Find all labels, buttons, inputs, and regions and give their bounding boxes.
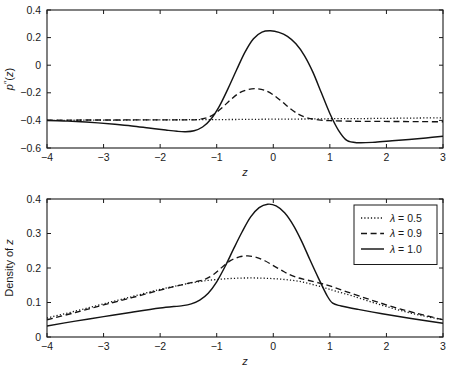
y-tick-label: 0.2	[26, 31, 41, 43]
y-tick-label: 0	[35, 331, 41, 343]
x-tick-label: 2	[384, 151, 390, 163]
x-tick-label: 0	[270, 151, 276, 163]
y-tick-label: −0.6	[20, 142, 41, 154]
y-axis-title: p′′(z)	[2, 68, 15, 91]
x-axis-title: z	[241, 355, 248, 367]
y-tick-label: −0.4	[20, 114, 41, 126]
x-tick-label: 0	[270, 340, 276, 352]
plot-frame	[47, 10, 443, 148]
x-tick-label: 1	[327, 340, 333, 352]
x-tick-label: −1	[211, 340, 223, 352]
y-axis-title: Density of z	[3, 239, 15, 297]
y-tick-label: 0.2	[26, 262, 41, 274]
figure-container: −4−3−2−10123−0.6−0.4−0.200.20.4zp′′(z) −…	[0, 0, 457, 377]
y-tick-label: 0.3	[26, 227, 41, 239]
series-line-dashed	[47, 256, 443, 320]
x-axis-title: z	[241, 166, 248, 178]
x-tick-label: −4	[41, 151, 53, 163]
x-tick-label: 3	[440, 151, 446, 163]
x-tick-label: −2	[154, 151, 166, 163]
chart-svg-top: −4−3−2−10123−0.6−0.4−0.200.20.4zp′′(z)	[0, 0, 457, 188]
y-tick-label: 0.4	[26, 4, 41, 16]
y-tick-label: 0.1	[26, 296, 41, 308]
legend-label: λ = 0.9	[389, 227, 422, 239]
x-tick-label: −2	[154, 340, 166, 352]
x-tick-label: −3	[98, 340, 110, 352]
x-tick-label: −4	[41, 340, 53, 352]
x-tick-label: −3	[98, 151, 110, 163]
y-tick-label: 0.4	[26, 193, 41, 205]
chart-panel-bottom: −4−3−2−1012300.10.20.30.4zDensity of zλ …	[0, 186, 457, 377]
x-tick-label: −1	[211, 151, 223, 163]
legend-label: λ = 0.5	[389, 212, 422, 224]
x-tick-label: 2	[384, 340, 390, 352]
curves-group	[47, 31, 443, 143]
series-line-dashed	[47, 89, 443, 122]
y-tick-label: 0	[35, 59, 41, 71]
x-tick-label: 1	[327, 151, 333, 163]
chart-svg-bottom: −4−3−2−1012300.10.20.30.4zDensity of zλ …	[0, 186, 457, 377]
series-line-solid	[47, 31, 443, 143]
y-tick-label: −0.2	[20, 86, 41, 98]
legend: λ = 0.5λ = 0.9λ = 1.0	[354, 205, 437, 265]
x-tick-label: 3	[440, 340, 446, 352]
legend-label: λ = 1.0	[389, 243, 422, 255]
chart-panel-top: −4−3−2−10123−0.6−0.4−0.200.20.4zp′′(z)	[0, 0, 457, 188]
